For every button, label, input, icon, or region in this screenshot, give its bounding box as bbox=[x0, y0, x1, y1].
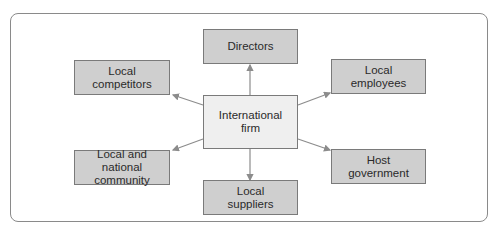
box-international-firm: International firm bbox=[203, 95, 298, 149]
box-directors: Directors bbox=[203, 29, 298, 64]
box-local-competitors: Local competitors bbox=[74, 60, 170, 95]
box-local-suppliers: Local suppliers bbox=[203, 180, 298, 215]
box-local-employees: Local employees bbox=[331, 59, 426, 94]
box-host-government: Host government bbox=[331, 149, 426, 184]
arrow-to-local-competitors bbox=[173, 95, 203, 105]
arrow-to-local-employees bbox=[298, 93, 330, 105]
arrow-to-community bbox=[173, 139, 203, 150]
arrow-to-host-government bbox=[298, 139, 330, 150]
box-local-national-community: Local and national community bbox=[74, 150, 170, 185]
